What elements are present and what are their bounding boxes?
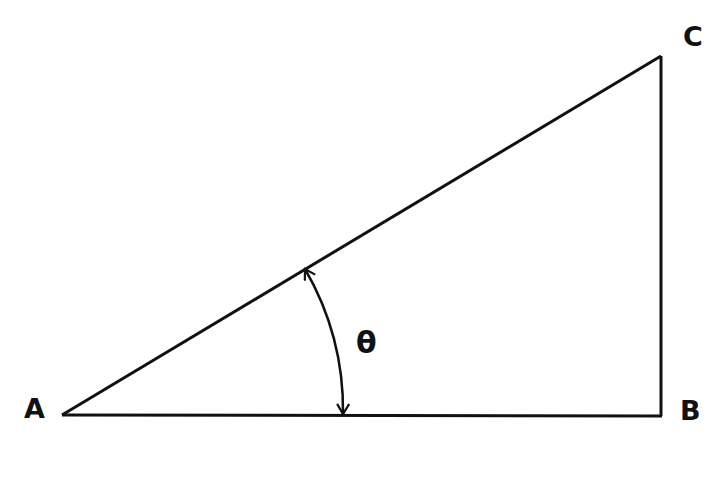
vertex-label-b: B	[680, 395, 701, 426]
side-ac-hypotenuse	[62, 56, 661, 415]
vertex-label-a: A	[24, 393, 45, 424]
angle-theta-arc	[305, 269, 343, 414]
right-triangle-diagram: A B C θ	[0, 0, 725, 478]
angle-label-theta: θ	[356, 325, 377, 360]
side-ab-adjacent	[62, 415, 662, 416]
vertex-label-c: C	[683, 21, 703, 52]
